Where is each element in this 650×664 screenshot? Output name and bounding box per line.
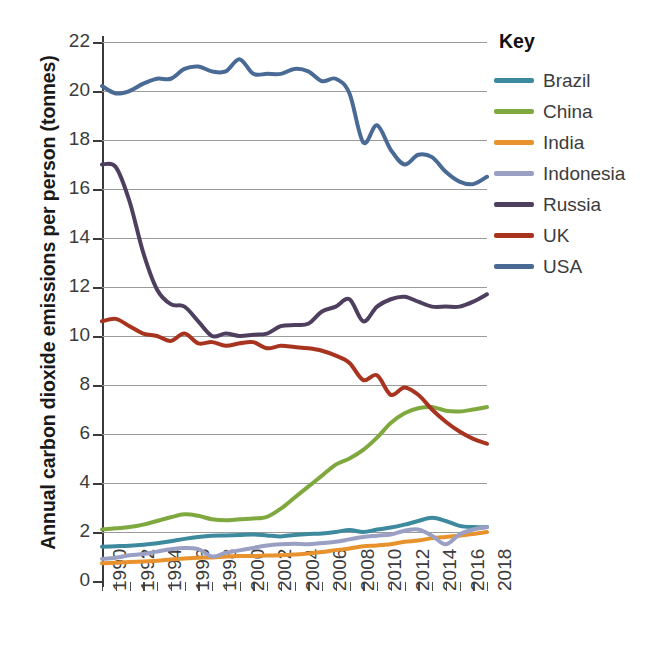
legend-item-label: Indonesia [543,163,625,185]
y-tick-mark [93,238,102,240]
legend-item-indonesia[interactable]: Indonesia [494,158,625,189]
y-tick-mark [93,140,102,142]
legend-item-india[interactable]: India [494,127,625,158]
series-line-usa [102,59,487,184]
legend-item-russia[interactable]: Russia [494,189,625,220]
y-tick-label: 16 [46,177,90,199]
legend-swatch-icon [494,264,534,269]
y-tick-label: 8 [46,373,90,395]
y-tick-label: 2 [46,520,90,542]
y-tick-label: 10 [46,324,90,346]
legend-item-uk[interactable]: UK [494,220,625,251]
legend-item-china[interactable]: China [494,96,625,127]
x-tick-label: 2018 [494,549,516,591]
legend-swatch-icon [494,202,534,207]
y-tick-label: 14 [46,226,90,248]
legend-title: Key [499,30,625,53]
plot-area [102,42,487,581]
legend-item-usa[interactable]: USA [494,251,625,282]
series-line-uk [102,319,487,444]
legend-item-label: Russia [543,194,601,216]
legend-swatch-icon [494,109,534,114]
legend-item-label: Brazil [543,70,591,92]
legend-item-group: BrazilChinaIndiaIndonesiaRussiaUKUSA [494,65,625,282]
y-tick-label: 6 [46,422,90,444]
y-axis-title: Annual carbon dioxide emissions per pers… [37,23,60,583]
legend-swatch-icon [494,233,534,238]
y-tick-mark [93,532,102,534]
y-tick-label: 12 [46,275,90,297]
legend-item-brazil[interactable]: Brazil [494,65,625,96]
emissions-line-chart: Annual carbon dioxide emissions per pers… [0,0,650,664]
legend-item-label: USA [543,256,582,278]
y-tick-mark [93,287,102,289]
legend-swatch-icon [494,171,534,176]
series-line-russia [102,164,487,337]
y-tick-mark [93,336,102,338]
y-tick-mark [93,483,102,485]
y-tick-mark [93,581,102,583]
y-tick-label: 20 [46,79,90,101]
legend-swatch-icon [494,78,534,83]
y-tick-mark [93,385,102,387]
y-tick-mark [93,91,102,93]
series-line-china [102,407,487,530]
legend-swatch-icon [494,140,534,145]
y-tick-label: 22 [46,30,90,52]
y-tick-label: 0 [46,569,90,591]
legend-item-label: India [543,132,584,154]
y-tick-label: 18 [46,128,90,150]
legend-item-label: China [543,101,593,123]
y-tick-mark [93,434,102,436]
y-tick-mark [93,42,102,44]
series-lines [102,42,487,581]
y-tick-mark [93,189,102,191]
y-tick-label: 4 [46,471,90,493]
legend: Key BrazilChinaIndiaIndonesiaRussiaUKUSA [494,30,625,282]
legend-item-label: UK [543,225,569,247]
